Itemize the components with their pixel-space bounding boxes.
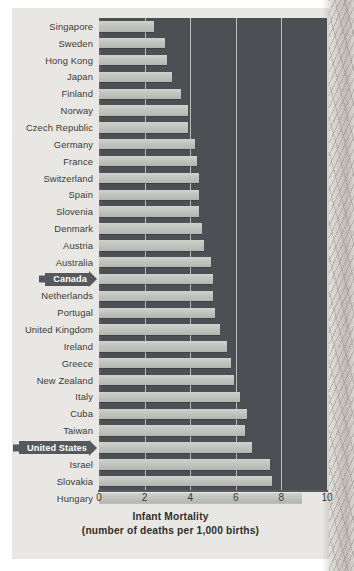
category-label: France	[63, 156, 93, 167]
bar	[99, 308, 215, 318]
category-label-row: Canada	[12, 271, 97, 288]
chart-row	[99, 389, 327, 406]
category-label-row: Czech Republic	[12, 119, 97, 136]
category-axis-labels: SingaporeSwedenHong KongJapanFinlandNorw…	[12, 18, 97, 490]
bar	[99, 358, 231, 368]
x-tick-2: 2	[142, 492, 148, 503]
category-label: Germany	[54, 139, 93, 150]
category-label: Portugal	[57, 307, 93, 318]
category-label: Spain	[69, 189, 93, 200]
x-tick-8: 8	[279, 492, 285, 503]
chart-row	[99, 69, 327, 86]
category-label: Hong Kong	[45, 55, 93, 66]
category-label-row: Portugal	[12, 304, 97, 321]
category-label: Slovenia	[56, 206, 93, 217]
chart-row	[99, 473, 327, 490]
chart-row	[99, 52, 327, 69]
bar	[99, 341, 227, 351]
x-tick-0: 0	[96, 492, 102, 503]
x-tick-10: 10	[321, 492, 332, 503]
category-label: United States	[27, 443, 87, 453]
category-label: Ireland	[64, 341, 93, 352]
bar	[99, 476, 272, 486]
category-label-row: Austria	[12, 237, 97, 254]
category-label: Singapore	[49, 21, 93, 32]
category-label: United Kingdom	[25, 324, 93, 335]
category-label: Japan	[67, 71, 93, 82]
chart-row	[99, 304, 327, 321]
bar	[99, 206, 199, 216]
category-label-row: Cuba	[12, 405, 97, 422]
chart-row	[99, 85, 327, 102]
infant-mortality-bar-chart: SingaporeSwedenHong KongJapanFinlandNorw…	[12, 8, 329, 559]
category-label-row: Finland	[12, 85, 97, 102]
category-label-row: Ireland	[12, 338, 97, 355]
category-label-row: Spain	[12, 186, 97, 203]
chart-row	[99, 170, 327, 187]
bar	[99, 459, 270, 469]
bar-series	[99, 18, 327, 490]
bar	[99, 375, 234, 385]
category-label-row: Sweden	[12, 35, 97, 52]
category-label: Taiwan	[63, 425, 93, 436]
category-label-row: Netherlands	[12, 288, 97, 305]
book-page-edge-texture	[329, 0, 354, 571]
chart-row	[99, 456, 327, 473]
chart-row	[99, 422, 327, 439]
highlight-banner-arrow: Canada	[45, 273, 90, 286]
category-label-row: Japan	[12, 69, 97, 86]
page-canvas: SingaporeSwedenHong KongJapanFinlandNorw…	[0, 0, 354, 571]
bar	[99, 257, 211, 267]
chart-row	[99, 254, 327, 271]
category-label-row: Slovakia	[12, 473, 97, 490]
category-label: Australia	[56, 257, 93, 268]
category-label-row: Denmark	[12, 220, 97, 237]
category-label-row: Slovenia	[12, 203, 97, 220]
category-label-row: Hungary	[12, 490, 97, 507]
chart-row	[99, 18, 327, 35]
chart-row	[99, 203, 327, 220]
bar	[99, 425, 245, 435]
chart-row	[99, 153, 327, 170]
chart-row	[99, 186, 327, 203]
bar	[99, 173, 199, 183]
chart-row	[99, 119, 327, 136]
category-label: Netherlands	[41, 290, 93, 301]
category-label: Austria	[63, 240, 93, 251]
category-label-row: Switzerland	[12, 170, 97, 187]
bar	[99, 190, 199, 200]
category-label: Czech Republic	[26, 122, 93, 133]
chart-row	[99, 271, 327, 288]
chart-row	[99, 237, 327, 254]
chart-row	[99, 220, 327, 237]
category-label-row: Taiwan	[12, 422, 97, 439]
axis-title-line2: (number of deaths per 1,000 births)	[12, 524, 329, 538]
chart-row	[99, 35, 327, 52]
bar	[99, 122, 188, 132]
category-label: New Zealand	[37, 375, 93, 386]
category-label: Canada	[53, 274, 87, 284]
category-label-row: United Kingdom	[12, 321, 97, 338]
chart-row	[99, 102, 327, 119]
category-label: Greece	[62, 358, 93, 369]
bar	[99, 274, 213, 284]
bar	[99, 442, 252, 452]
bar	[99, 392, 240, 402]
chart-row	[99, 372, 327, 389]
bar	[99, 105, 188, 115]
bar	[99, 21, 154, 31]
category-label-row: Greece	[12, 355, 97, 372]
highlight-banner-arrow: United States	[19, 441, 90, 454]
bar	[99, 139, 195, 149]
bar	[99, 89, 181, 99]
category-label-row: Australia	[12, 254, 97, 271]
category-label: Hungary	[57, 493, 93, 504]
x-tick-6: 6	[233, 492, 239, 503]
category-label: Israel	[69, 459, 93, 470]
chart-row	[99, 405, 327, 422]
category-label-row: Norway	[12, 102, 97, 119]
category-label: Switzerland	[43, 173, 93, 184]
axis-title-line1: Infant Mortality	[12, 510, 329, 524]
chart-row	[99, 321, 327, 338]
x-tick-4: 4	[187, 492, 193, 503]
